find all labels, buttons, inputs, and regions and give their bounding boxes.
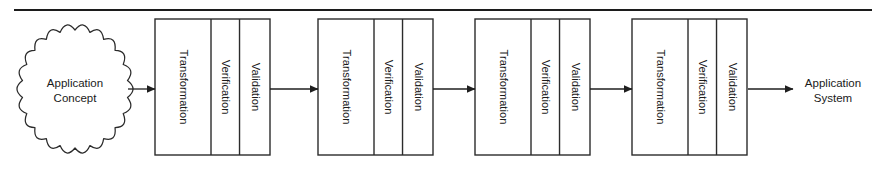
- application-system-node: ApplicationSystem: [805, 77, 861, 104]
- pipeline-diagram: ApplicationConcept TransformationVerific…: [0, 0, 881, 170]
- stage-4-cell-verification: Verification: [697, 60, 709, 115]
- application-system-label-line1: Application: [805, 77, 861, 89]
- application-concept-label-line2: Concept: [54, 92, 98, 104]
- cloud-shape: [17, 25, 133, 153]
- stage-4: TransformationVerificationValidation: [632, 19, 747, 155]
- stage-3: TransformationVerificationValidation: [475, 19, 590, 155]
- stage-2-cell-validation: Validation: [413, 63, 425, 111]
- stage-2-cell-verification: Verification: [383, 60, 395, 115]
- stage-boxes: TransformationVerificationValidationTran…: [155, 19, 747, 155]
- stage-1-cell-validation: Validation: [250, 63, 262, 111]
- diagram-canvas: ApplicationConcept TransformationVerific…: [0, 0, 881, 170]
- stage-1-cell-transformation: Transformation: [178, 50, 190, 125]
- stage-1-cell-verification: Verification: [220, 60, 232, 115]
- application-system-label-line2: System: [814, 92, 852, 104]
- stage-4-cell-validation: Validation: [727, 63, 739, 111]
- stage-3-cell-transformation: Transformation: [498, 50, 510, 125]
- application-concept-label-line1: Application: [47, 77, 103, 89]
- stage-1: TransformationVerificationValidation: [155, 19, 270, 155]
- stage-3-cell-verification: Verification: [540, 60, 552, 115]
- stage-4-cell-transformation: Transformation: [655, 50, 667, 125]
- stage-2: TransformationVerificationValidation: [318, 19, 433, 155]
- application-concept-node: ApplicationConcept: [17, 25, 133, 153]
- stage-2-cell-transformation: Transformation: [341, 50, 353, 125]
- stage-3-cell-validation: Validation: [570, 63, 582, 111]
